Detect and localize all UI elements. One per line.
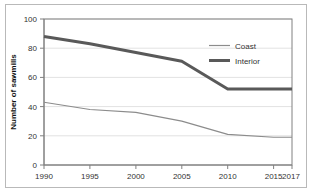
x-tick-label-2005: 2005 <box>173 172 191 181</box>
y-tick-label-20: 20 <box>28 132 37 141</box>
x-tick-label-2000: 2000 <box>127 172 145 181</box>
line-chart: 100 80 60 40 20 0 1990 1995 2000 2005 20… <box>0 0 312 193</box>
y-tick-label-100: 100 <box>24 15 38 24</box>
x-tick-label-2017: 2017 <box>282 172 300 181</box>
x-tick-label-2015: 2015 <box>265 172 283 181</box>
y-tick-label-80: 80 <box>28 44 37 53</box>
chart-figure: 100 80 60 40 20 0 1990 1995 2000 2005 20… <box>0 0 312 193</box>
y-axis-title: Number of sawmills <box>9 54 18 130</box>
x-tick-label-1990: 1990 <box>35 172 53 181</box>
x-tick-label-1995: 1995 <box>81 172 99 181</box>
y-axis-ticks <box>40 19 44 165</box>
legend-label-interior: Interior <box>235 57 260 66</box>
y-tick-label-40: 40 <box>28 103 37 112</box>
x-tick-label-2010: 2010 <box>219 172 237 181</box>
x-axis-ticks <box>44 165 292 169</box>
legend-label-coast: Coast <box>235 42 257 51</box>
y-tick-label-0: 0 <box>33 161 38 170</box>
y-tick-label-60: 60 <box>28 73 37 82</box>
